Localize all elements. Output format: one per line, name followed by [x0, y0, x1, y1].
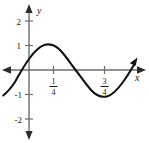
axes-group — [2, 4, 146, 140]
y-axis-label: y — [36, 5, 42, 16]
fraction-numerator: 3 — [103, 77, 107, 86]
y-axis-arrow-up-icon — [25, 4, 32, 13]
curve-end-arrowhead-icon — [130, 58, 138, 66]
sine-graph-figure: 2 1 -1 -2 1 4 3 4 y x — [0, 0, 149, 143]
fraction-denominator: 4 — [52, 88, 56, 97]
fraction-numerator: 1 — [52, 77, 56, 86]
y-tick-label-1: 1 — [17, 41, 22, 51]
y-tick-label-2: 2 — [17, 17, 22, 27]
y-tick-label-neg1: -1 — [15, 90, 23, 100]
x-axis-label: x — [134, 72, 140, 83]
x-axis-arrow-left-icon — [2, 66, 11, 73]
y-tick-label-neg2: -2 — [15, 115, 23, 125]
y-axis-arrow-down-icon — [25, 131, 32, 140]
coordinate-plane-svg: 2 1 -1 -2 1 4 3 4 y x — [0, 0, 149, 143]
x-tick-label-one-quarter: 1 4 — [50, 77, 58, 97]
fraction-denominator: 4 — [103, 88, 107, 97]
x-tick-label-three-quarters: 3 4 — [101, 77, 109, 97]
